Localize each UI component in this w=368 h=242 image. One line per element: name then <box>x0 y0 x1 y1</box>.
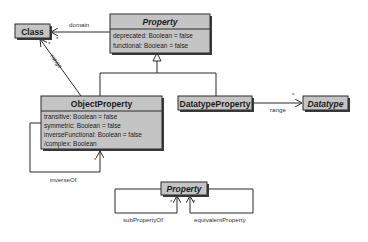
association-domain[interactable]: domain * <box>51 21 110 42</box>
class-name-object-property: ObjectProperty <box>71 99 133 109</box>
attribute-inverse-functional: inverseFunctional: Boolean = false <box>44 131 142 138</box>
uml-diagram-canvas: domain * range * range * inverseOf * sub… <box>0 0 368 242</box>
attribute-complex: /complex: Boolean <box>44 140 97 148</box>
association-label-inverse-of: inverseOf <box>50 176 77 183</box>
multiplicity-domain: * <box>56 36 59 42</box>
association-datatype-range[interactable]: range * <box>253 92 302 113</box>
class-name-property-bottom: Property <box>167 184 203 194</box>
class-box-property-bottom[interactable]: Property <box>161 182 209 197</box>
generalization-property[interactable] <box>100 53 216 96</box>
association-label-object-range: range <box>49 52 64 69</box>
association-label-sub-property-of: subPropertyOf <box>123 216 163 223</box>
multiplicity-datatype-range: * <box>292 92 295 98</box>
multiplicity-equivalent-property: * <box>193 199 196 205</box>
multiplicity-inverse-of: * <box>94 157 97 163</box>
class-name-datatype-property: DatatypeProperty <box>180 99 251 109</box>
class-box-datatype[interactable]: Datatype <box>303 96 350 112</box>
class-name-property: Property <box>143 17 179 27</box>
class-box-datatype-property[interactable]: DatatypeProperty <box>178 96 254 112</box>
multiplicity-sub-property-of: * <box>170 199 173 205</box>
association-label-equivalent-property: equivalentProperty <box>194 216 246 223</box>
association-label-domain: domain <box>69 21 90 28</box>
class-box-object-property[interactable]: ObjectProperty transitive: Boolean = fal… <box>41 96 164 151</box>
association-label-datatype-range: range <box>270 106 286 113</box>
multiplicity-object-range: * <box>48 41 51 47</box>
class-name-datatype: Datatype <box>308 99 344 109</box>
attribute-symmetric: symmetric: Boolean = false <box>44 122 121 130</box>
attribute-functional: functional: Boolean = false <box>113 42 189 49</box>
attribute-transitive: transitive: Boolean = false <box>44 113 118 120</box>
class-box-class[interactable]: Class <box>15 24 52 40</box>
attribute-deprecated: deprecated: Boolean = false <box>113 32 193 40</box>
class-name-class: Class <box>21 27 44 37</box>
class-box-property[interactable]: Property deprecated: Boolean = false fun… <box>110 14 212 55</box>
association-object-range[interactable]: range * <box>40 39 81 96</box>
